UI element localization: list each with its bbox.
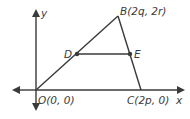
point-E [128,52,132,56]
y-axis-label: y [40,7,48,19]
point-E-label: E [134,48,141,60]
point-O-label: O(0, 0) [38,94,75,106]
point-B-label: B(2q, 2r) [120,5,166,17]
x-axis-label: x [175,94,183,106]
point-D [75,52,79,56]
point-D-label: D [64,48,72,60]
point-C-label: C(2p, 0) [127,94,169,106]
coordinate-diagram: y x B(2q, 2r) D E O(0, 0) C(2p, 0) [0,0,190,119]
